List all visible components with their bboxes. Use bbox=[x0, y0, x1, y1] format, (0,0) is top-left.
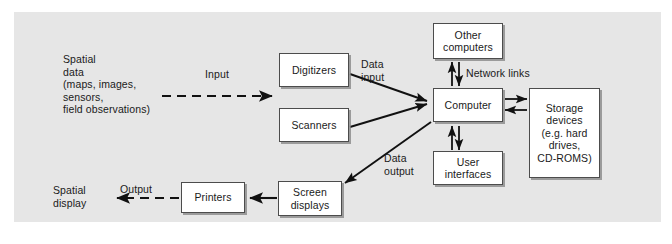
node-storage-devices[interactable]: Storage devices (e.g. hard drives, CD-RO… bbox=[529, 88, 600, 178]
node-user-interfaces[interactable]: User interfaces bbox=[433, 151, 503, 185]
diagram-canvas: Spatial data (maps, images, sensors, fie… bbox=[0, 0, 672, 244]
node-computer[interactable]: Computer bbox=[433, 88, 503, 122]
node-digitizers[interactable]: Digitizers bbox=[279, 53, 349, 87]
label-input: Input bbox=[187, 68, 247, 81]
label-data-output: Data output bbox=[384, 152, 432, 177]
node-scanners[interactable]: Scanners bbox=[279, 108, 349, 142]
label-spatial-display: Spatial display bbox=[53, 184, 117, 209]
label-data-input: Data input bbox=[361, 58, 405, 83]
node-screen-displays[interactable]: Screen displays bbox=[278, 181, 342, 216]
node-printers[interactable]: Printers bbox=[181, 182, 245, 213]
label-spatial-data: Spatial data (maps, images, sensors, fie… bbox=[63, 53, 183, 116]
label-network-links: Network links bbox=[466, 67, 552, 80]
node-other-computers[interactable]: Other computers bbox=[433, 23, 503, 59]
